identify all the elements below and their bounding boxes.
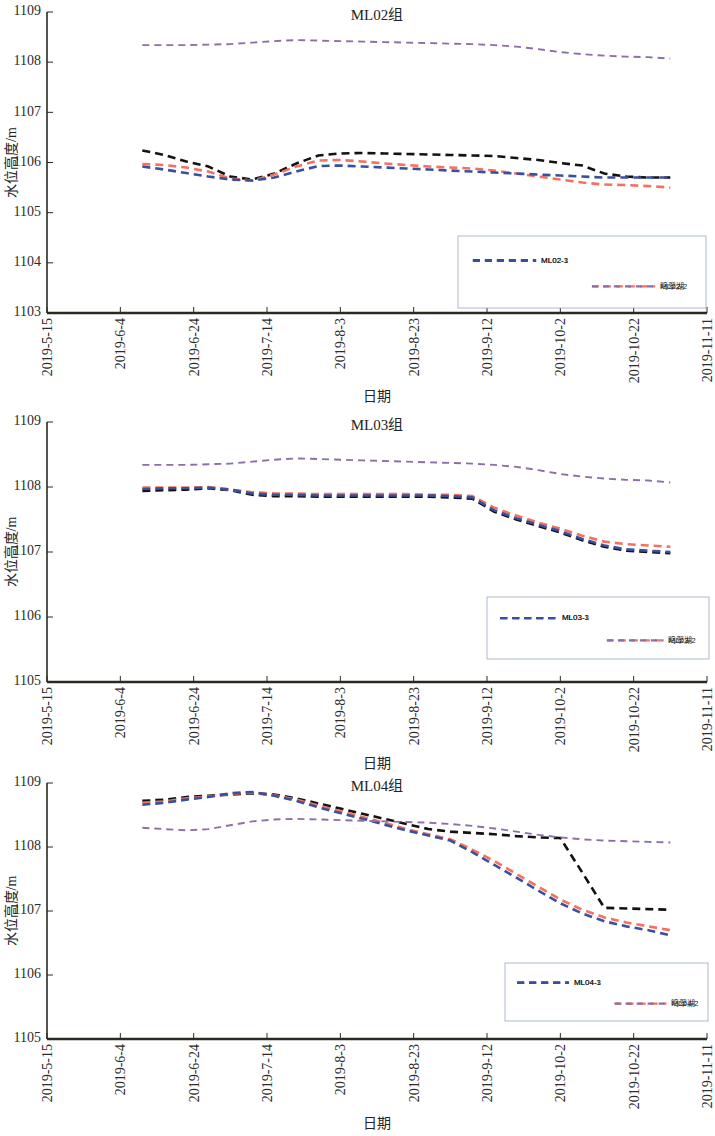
x-tick-label: 2019-5-15	[40, 318, 55, 376]
series-line-ML04-2	[142, 793, 670, 931]
x-tick-label: 2019-6-24	[187, 318, 202, 376]
x-axis-title: 日期	[363, 756, 391, 771]
chart-svg-2: ML03组110511061107110811092019-5-152019-6…	[0, 410, 715, 775]
chart-panel-ml02: ML02组11031104110511061107110811092019-5-…	[0, 0, 715, 410]
chart-title: ML02组	[351, 7, 404, 23]
x-tick-label: 2019-5-15	[40, 687, 55, 745]
x-tick-label: 2019-8-23	[407, 687, 422, 745]
legend-box	[458, 236, 706, 308]
x-axis-title: 日期	[363, 389, 391, 404]
legend: ML04-1ML04-2ML04-3鸣翠湖	[505, 963, 708, 1021]
y-tick-label: 1109	[14, 775, 41, 789]
x-tick-label: 2019-8-3	[333, 318, 348, 369]
x-tick-label: 2019-10-22	[627, 1044, 642, 1109]
y-tick-label: 1109	[14, 413, 41, 428]
x-tick-label: 2019-11-11	[700, 1044, 715, 1108]
series-line-鸣翠湖	[142, 819, 670, 843]
x-axis-title: 日期	[363, 1116, 391, 1131]
chart-title: ML03组	[351, 417, 404, 433]
legend: ML02-1ML02-2ML02-3鸣翠湖	[458, 236, 706, 308]
x-tick-label: 2019-9-12	[480, 687, 495, 745]
x-tick-label: 2019-7-14	[260, 687, 275, 745]
chart-svg-1: ML02组11031104110511061107110811092019-5-…	[0, 0, 715, 410]
x-tick-label: 2019-10-2	[553, 318, 568, 376]
legend-label-ML02-3: ML02-3	[541, 256, 569, 265]
y-tick-label: 1108	[14, 838, 41, 853]
x-tick-label: 2019-8-3	[333, 687, 348, 738]
series-line-ML03-1	[142, 488, 670, 553]
chart-svg-3: ML04组110511061107110811092019-5-152019-6…	[0, 775, 715, 1136]
y-tick-label: 1105	[14, 1030, 41, 1045]
chart-panel-ml03: ML03组110511061107110811092019-5-152019-6…	[0, 410, 715, 775]
x-tick-label: 2019-11-11	[700, 318, 715, 382]
x-tick-label: 2019-7-14	[260, 1044, 275, 1102]
y-tick-label: 1105	[14, 204, 41, 219]
x-tick-label: 2019-6-24	[187, 687, 202, 745]
x-tick-label: 2019-6-4	[113, 318, 128, 369]
chart-title: ML04组	[351, 778, 404, 794]
legend: ML03-1ML03-2ML03-3鸣翠湖	[487, 597, 709, 659]
legend-box	[487, 597, 709, 659]
x-tick-label: 2019-10-2	[553, 1044, 568, 1102]
series-line-鸣翠湖	[142, 458, 670, 482]
y-tick-label: 1105	[14, 673, 41, 688]
x-tick-label: 2019-8-23	[407, 1044, 422, 1102]
legend-label-鸣翠湖: 鸣翠湖	[660, 281, 684, 291]
chart-panel-ml04: ML04组110511061107110811092019-5-152019-6…	[0, 775, 715, 1136]
y-tick-label: 1104	[14, 254, 41, 269]
legend-label-鸣翠湖: 鸣翠湖	[671, 998, 695, 1008]
legend-box	[505, 963, 708, 1021]
y-tick-label: 1106	[14, 608, 41, 623]
y-axis-title: 水位高度/m	[3, 517, 19, 588]
x-tick-label: 2019-8-23	[407, 318, 422, 376]
y-tick-label: 1108	[14, 53, 41, 68]
y-tick-label: 1107	[14, 104, 41, 119]
legend-label-鸣翠湖: 鸣翠湖	[668, 635, 692, 645]
x-tick-label: 2019-6-24	[187, 1044, 202, 1102]
x-tick-label: 2019-10-22	[627, 687, 642, 752]
series-line-ML04-1	[142, 793, 670, 909]
y-tick-label: 1106	[14, 966, 41, 981]
x-tick-label: 2019-9-12	[480, 1044, 495, 1102]
legend-label-ML03-3: ML03-3	[562, 613, 590, 622]
y-tick-label: 1103	[14, 304, 41, 319]
x-tick-label: 2019-5-15	[40, 1044, 55, 1102]
x-tick-label: 2019-6-4	[113, 687, 128, 738]
x-tick-label: 2019-8-3	[333, 1044, 348, 1095]
x-tick-label: 2019-11-11	[700, 687, 715, 751]
x-tick-label: 2019-6-4	[113, 1044, 128, 1095]
y-tick-label: 1109	[14, 3, 41, 18]
figure-page: ML02组11031104110511061107110811092019-5-…	[0, 0, 715, 1136]
legend-label-ML04-3: ML04-3	[574, 978, 602, 987]
y-axis-title: 水位高度/m	[3, 876, 19, 947]
x-tick-label: 2019-7-14	[260, 318, 275, 376]
x-tick-label: 2019-10-2	[553, 687, 568, 745]
x-tick-label: 2019-10-22	[627, 318, 642, 383]
y-axis-title: 水位高度/m	[3, 127, 19, 198]
x-tick-label: 2019-9-12	[480, 318, 495, 376]
series-line-鸣翠湖	[142, 40, 670, 59]
y-tick-label: 1108	[14, 478, 41, 493]
